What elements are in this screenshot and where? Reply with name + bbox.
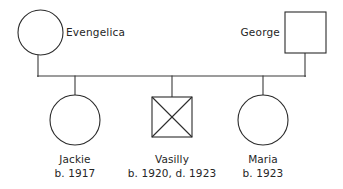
child-name-maria: Maria — [248, 153, 278, 165]
child-dates-vasilly: b. 1920, d. 1923 — [128, 167, 216, 179]
pedigree-canvas: Evengelica George Jackie b. 1917 Vasilly… — [0, 0, 343, 189]
parent-node-george[interactable]: George — [241, 12, 326, 53]
parent-node-evengelica[interactable]: Evengelica — [18, 10, 125, 55]
child-node-vasilly[interactable]: Vasilly b. 1920, d. 1923 — [128, 97, 216, 179]
child-dates-jackie: b. 1917 — [55, 167, 96, 179]
female-circle-symbol — [50, 95, 100, 145]
child-node-jackie[interactable]: Jackie b. 1917 — [50, 95, 100, 179]
child-node-maria[interactable]: Maria b. 1923 — [238, 95, 288, 179]
female-circle-symbol — [18, 10, 63, 55]
child-name-vasilly: Vasilly — [155, 153, 189, 165]
pedigree-chart: Evengelica George Jackie b. 1917 Vasilly… — [0, 0, 343, 189]
parent-label-george: George — [241, 26, 280, 38]
male-square-symbol — [285, 12, 326, 53]
child-dates-maria: b. 1923 — [243, 167, 284, 179]
female-circle-symbol — [238, 95, 288, 145]
parent-label-evengelica: Evengelica — [66, 26, 125, 38]
child-name-jackie: Jackie — [58, 153, 90, 165]
connection-lines — [38, 53, 306, 98]
